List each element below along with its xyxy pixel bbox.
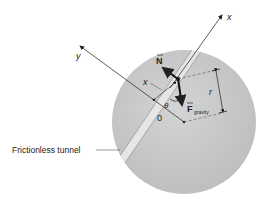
- theta-label: θ: [164, 101, 169, 110]
- origin-label: 0: [157, 113, 162, 123]
- gravity-force-label: F: [187, 104, 193, 114]
- y-axis-label: y: [75, 51, 81, 61]
- tunnel-label: Frictionless tunnel: [12, 145, 81, 155]
- normal-force-label: N: [156, 56, 163, 66]
- center-point: [183, 121, 185, 123]
- tunnel-diagram: x y r x θ 0 N F gravity Frictionless tun…: [0, 0, 265, 203]
- x-axis-label: x: [226, 12, 232, 22]
- gravity-subscript: gravity: [194, 109, 209, 115]
- displacement-label: x: [142, 77, 148, 87]
